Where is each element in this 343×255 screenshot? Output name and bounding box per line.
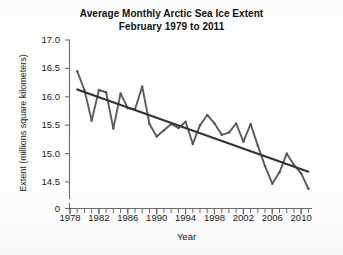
data-point-marker — [257, 144, 260, 147]
data-point-marker — [105, 91, 108, 94]
x-axis-minor-ticks — [70, 209, 308, 214]
data-point-marker — [307, 188, 310, 191]
data-point-marker — [242, 140, 245, 143]
data-point-marker — [249, 123, 252, 126]
trend-line — [77, 89, 308, 171]
data-point-marker — [235, 122, 238, 125]
data-point-marker — [285, 152, 288, 155]
data-point-marker — [300, 172, 303, 175]
data-point-marker — [98, 89, 101, 92]
data-point-marker — [155, 135, 158, 138]
data-point-marker — [148, 123, 151, 126]
data-point-marker — [278, 171, 281, 174]
data-point-marker — [199, 124, 202, 127]
data-point-marker — [112, 127, 115, 130]
data-point-marker — [90, 119, 93, 122]
data-point-marker — [206, 114, 209, 117]
data-point-marker — [264, 165, 267, 168]
data-point-marker — [184, 121, 187, 124]
data-point-marker — [213, 122, 216, 125]
data-point-marker — [163, 129, 166, 132]
data-point-marker — [192, 143, 195, 146]
data-point-marker — [177, 127, 180, 130]
axis-lines — [67, 40, 312, 209]
data-point-marker — [141, 85, 144, 88]
data-point-marker — [271, 182, 274, 185]
chart-container: Average Monthly Arctic Sea Ice Extent Fe… — [0, 0, 343, 255]
data-point-marker — [220, 134, 223, 137]
plot-area — [0, 0, 343, 255]
data-point-marker — [228, 131, 231, 134]
data-point-marker — [76, 70, 79, 73]
trend-line-group — [77, 89, 308, 171]
data-point-marker — [119, 92, 122, 95]
